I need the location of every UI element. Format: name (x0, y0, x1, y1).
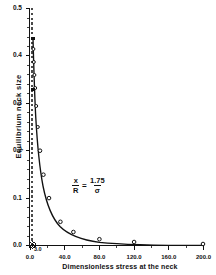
data-point (42, 173, 46, 177)
x-tick-label: 200.0 (191, 254, 216, 260)
data-point (33, 74, 36, 77)
x-tick-label: 120.0 (121, 254, 147, 260)
data-point (35, 105, 38, 108)
chart-figure: 0.5 0.4 0.3 0.2 0.1 0.0 0.0 40.0 80.0 12… (0, 0, 215, 275)
equation-annotation: x R = 1.75 σ (72, 177, 106, 195)
chart-plot-area (0, 0, 215, 275)
equation-left-fraction: x R (72, 177, 79, 195)
y-tick-label: 0.0 (0, 241, 22, 248)
equation-denominator-right: σ (94, 185, 101, 194)
equation-equals-sign: = (79, 182, 89, 190)
peak-marker (31, 37, 35, 40)
mid-marker (31, 88, 35, 91)
x-tick-label: 40.0 (52, 254, 78, 260)
data-point (98, 237, 102, 241)
reference-line-label: 3.0 (34, 246, 42, 252)
equation-numerator-right: 1.75 (89, 177, 106, 185)
x-tick-label: 160.0 (156, 254, 182, 260)
data-point (59, 220, 63, 224)
data-point (47, 196, 51, 200)
data-point (132, 240, 136, 244)
x-tick-label: 80.0 (86, 254, 112, 260)
equation-right-fraction: 1.75 σ (89, 177, 106, 195)
data-curve (33, 38, 204, 245)
data-point (201, 242, 205, 246)
y-major-ticks (26, 9, 30, 246)
data-markers (32, 48, 205, 246)
data-point (32, 61, 35, 64)
equation-denominator-left: R (72, 185, 79, 194)
x-axis-title: Dimensionless stress at the neck (30, 263, 210, 270)
y-axis-title: Equilibrium neck size (14, 37, 23, 197)
data-point (32, 48, 35, 51)
data-point (38, 149, 42, 153)
data-point (36, 126, 39, 129)
equation-numerator-left: x (73, 177, 79, 185)
data-point (72, 230, 76, 234)
x-tick-label: 0.0 (17, 254, 43, 260)
y-tick-label: 0.5 (0, 4, 22, 11)
